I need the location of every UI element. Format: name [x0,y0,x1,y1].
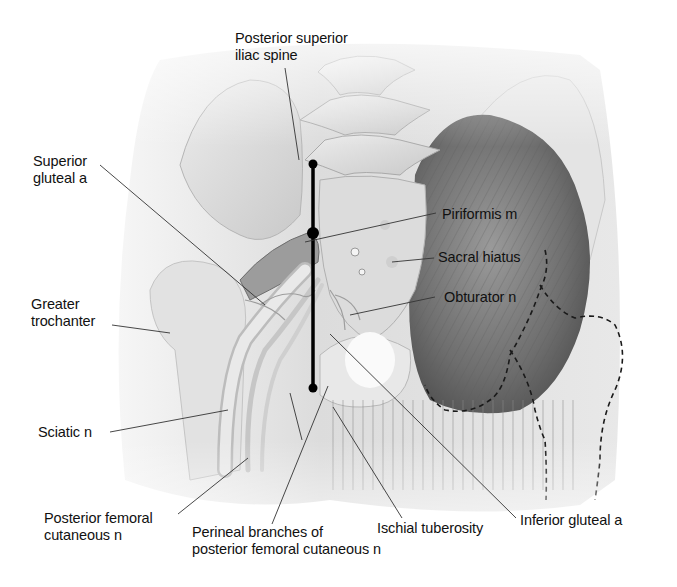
midpoint [307,227,319,239]
label-obturator-nerve: Obturator n [444,289,516,306]
label-sacral-hiatus: Sacral hiatus [438,249,521,266]
label-posterior-femoral-cutaneous-nerve: Posterior femoral cutaneous n [44,510,153,544]
label-sciatic-nerve: Sciatic n [38,424,92,441]
label-ischial-tuberosity: Ischial tuberosity [377,520,483,537]
label-inferior-gluteal-artery: Inferior gluteal a [520,512,622,529]
anatomy-figure: Posterior superior iliac spine Superior … [0,0,677,587]
ischial-point [309,384,318,393]
label-piriformis-muscle: Piriformis m [442,206,517,223]
psis-point [309,160,318,169]
label-greater-trochanter: Greater trochanter [31,296,95,330]
label-perineal-branches: Perineal branches of posterior femoral c… [192,524,381,558]
anatomy-illustration [0,0,677,587]
label-posterior-superior-iliac-spine: Posterior superior iliac spine [235,30,348,64]
label-superior-gluteal-artery: Superior gluteal a [33,153,87,187]
